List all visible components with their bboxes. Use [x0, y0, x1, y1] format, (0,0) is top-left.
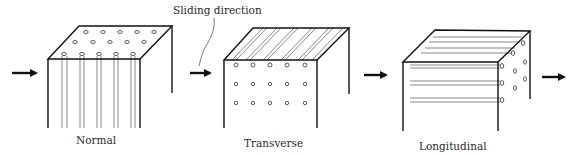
panel-longitudinal: Longitudinal [403, 30, 530, 152]
panel-normal: Normal [48, 26, 172, 146]
panel-label-normal: Normal [76, 134, 117, 146]
panel-label-longitudinal: Longitudinal [419, 140, 487, 152]
fiber-orientation-diagram: Sliding direction [0, 0, 577, 155]
normal-top-holes [62, 31, 157, 56]
longitudinal-top-fibers [421, 37, 522, 53]
longitudinal-side-holes [500, 41, 526, 103]
transverse-front-holes [234, 63, 307, 105]
panel-label-transverse: Transverse [244, 137, 303, 149]
normal-fibers [62, 56, 135, 128]
leader-line [199, 18, 214, 66]
panel-transverse: Transverse [224, 28, 349, 149]
longitudinal-front-fibers [410, 65, 500, 102]
sliding-direction-label: Sliding direction [173, 4, 262, 16]
